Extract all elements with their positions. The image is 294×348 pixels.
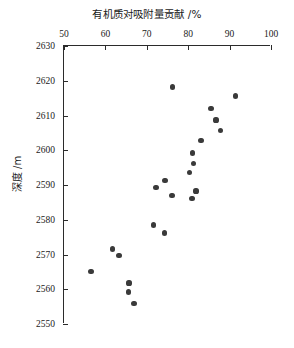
data-point: [193, 188, 198, 193]
y-axis-tick: [63, 116, 68, 117]
y-axis-tick-label: 2630: [36, 41, 55, 51]
data-point: [213, 117, 218, 122]
plot-area: 5060708090100263026202610260025902580257…: [63, 45, 270, 323]
x-axis-tick-label: 60: [101, 29, 111, 39]
y-axis-tick-label: 2600: [36, 145, 55, 155]
x-axis-tick: [230, 45, 231, 50]
data-point: [218, 128, 223, 133]
data-point: [116, 253, 121, 258]
x-axis-tick-label: 80: [183, 29, 193, 39]
data-point: [198, 138, 203, 143]
y-axis-tick: [63, 289, 68, 290]
x-axis-tick: [147, 45, 148, 50]
y-axis-label: 深度 /m: [9, 156, 24, 192]
x-axis-tick-label: 100: [264, 29, 278, 39]
x-axis-tick-label: 50: [59, 29, 69, 39]
data-point: [187, 170, 192, 175]
data-point: [170, 84, 175, 89]
data-point: [162, 230, 167, 235]
y-axis-tick: [63, 46, 68, 47]
data-point: [162, 178, 167, 183]
y-axis-tick: [63, 81, 68, 82]
data-point: [233, 93, 238, 98]
y-axis-tick: [63, 324, 68, 325]
data-point: [189, 196, 194, 201]
y-axis-tick-label: 2590: [36, 180, 55, 190]
y-axis-tick-label: 2550: [36, 319, 55, 329]
y-axis-tick: [63, 150, 68, 151]
y-axis-tick-label: 2580: [36, 215, 55, 225]
data-point: [131, 301, 136, 306]
y-axis-tick-label: 2610: [36, 111, 55, 121]
data-point: [190, 150, 195, 155]
data-point: [191, 161, 196, 166]
x-axis-tick-label: 90: [225, 29, 235, 39]
data-point: [208, 106, 213, 111]
x-axis-tick-label: 70: [142, 29, 152, 39]
data-point: [88, 269, 93, 274]
data-point: [110, 246, 115, 251]
data-point: [126, 280, 131, 285]
y-axis-tick: [63, 255, 68, 256]
data-point: [169, 193, 174, 198]
chart-title: 有机质对吸附量贡献 /%: [0, 6, 294, 21]
scatter-chart: 有机质对吸附量贡献 /% 深度 /m 506070809010026302620…: [0, 0, 294, 348]
x-axis-tick: [105, 45, 106, 50]
y-axis-tick: [63, 220, 68, 221]
y-axis-tick-label: 2570: [36, 250, 55, 260]
x-axis-tick: [188, 45, 189, 50]
data-point: [151, 222, 156, 227]
data-point: [153, 185, 158, 190]
y-axis-tick: [63, 185, 68, 186]
y-axis-tick-label: 2620: [36, 76, 55, 86]
x-axis-tick: [271, 45, 272, 50]
y-axis-tick-label: 2560: [36, 284, 55, 294]
data-point: [126, 289, 131, 294]
